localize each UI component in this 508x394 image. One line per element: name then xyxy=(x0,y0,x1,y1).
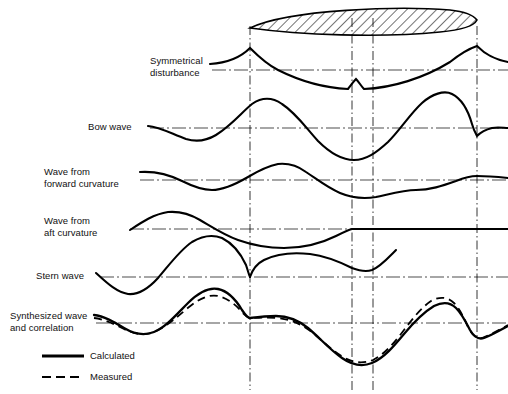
curve-synthesized-calculated xyxy=(94,289,508,365)
row-label-stern-wave: Stern wave xyxy=(36,270,100,282)
legend-swatches xyxy=(42,356,84,377)
legend-label-calculated: Calculated xyxy=(90,350,135,361)
row-label-symmetrical-disturbance: Symmetrical disturbance xyxy=(150,55,214,78)
legend-label-measured: Measured xyxy=(90,371,132,382)
diagram-canvas xyxy=(0,0,508,394)
curve-wave-from-aft-curvature xyxy=(130,212,508,248)
hull-outline xyxy=(250,8,477,35)
row-label-bow-wave: Bow wave xyxy=(88,121,150,133)
row-label-synthesized-wave: Synthesized wave and correlation xyxy=(10,310,102,333)
row-label-wave-from-aft-curvature: Wave from aft curvature xyxy=(44,215,132,238)
curve-stern-wave xyxy=(96,236,396,294)
hull-waterplane xyxy=(250,8,477,35)
curve-synthesized-measured xyxy=(94,296,508,363)
baselines xyxy=(96,70,508,323)
curve-symmetrical-disturbance xyxy=(210,46,508,89)
curve-wave-from-forward-curvature xyxy=(140,164,508,198)
row-label-wave-from-forward-curvature: Wave from forward curvature xyxy=(44,166,140,189)
ship-wave-diagram: Symmetrical disturbance Bow wave Wave fr… xyxy=(0,0,508,394)
curve-bow-wave xyxy=(148,92,508,160)
